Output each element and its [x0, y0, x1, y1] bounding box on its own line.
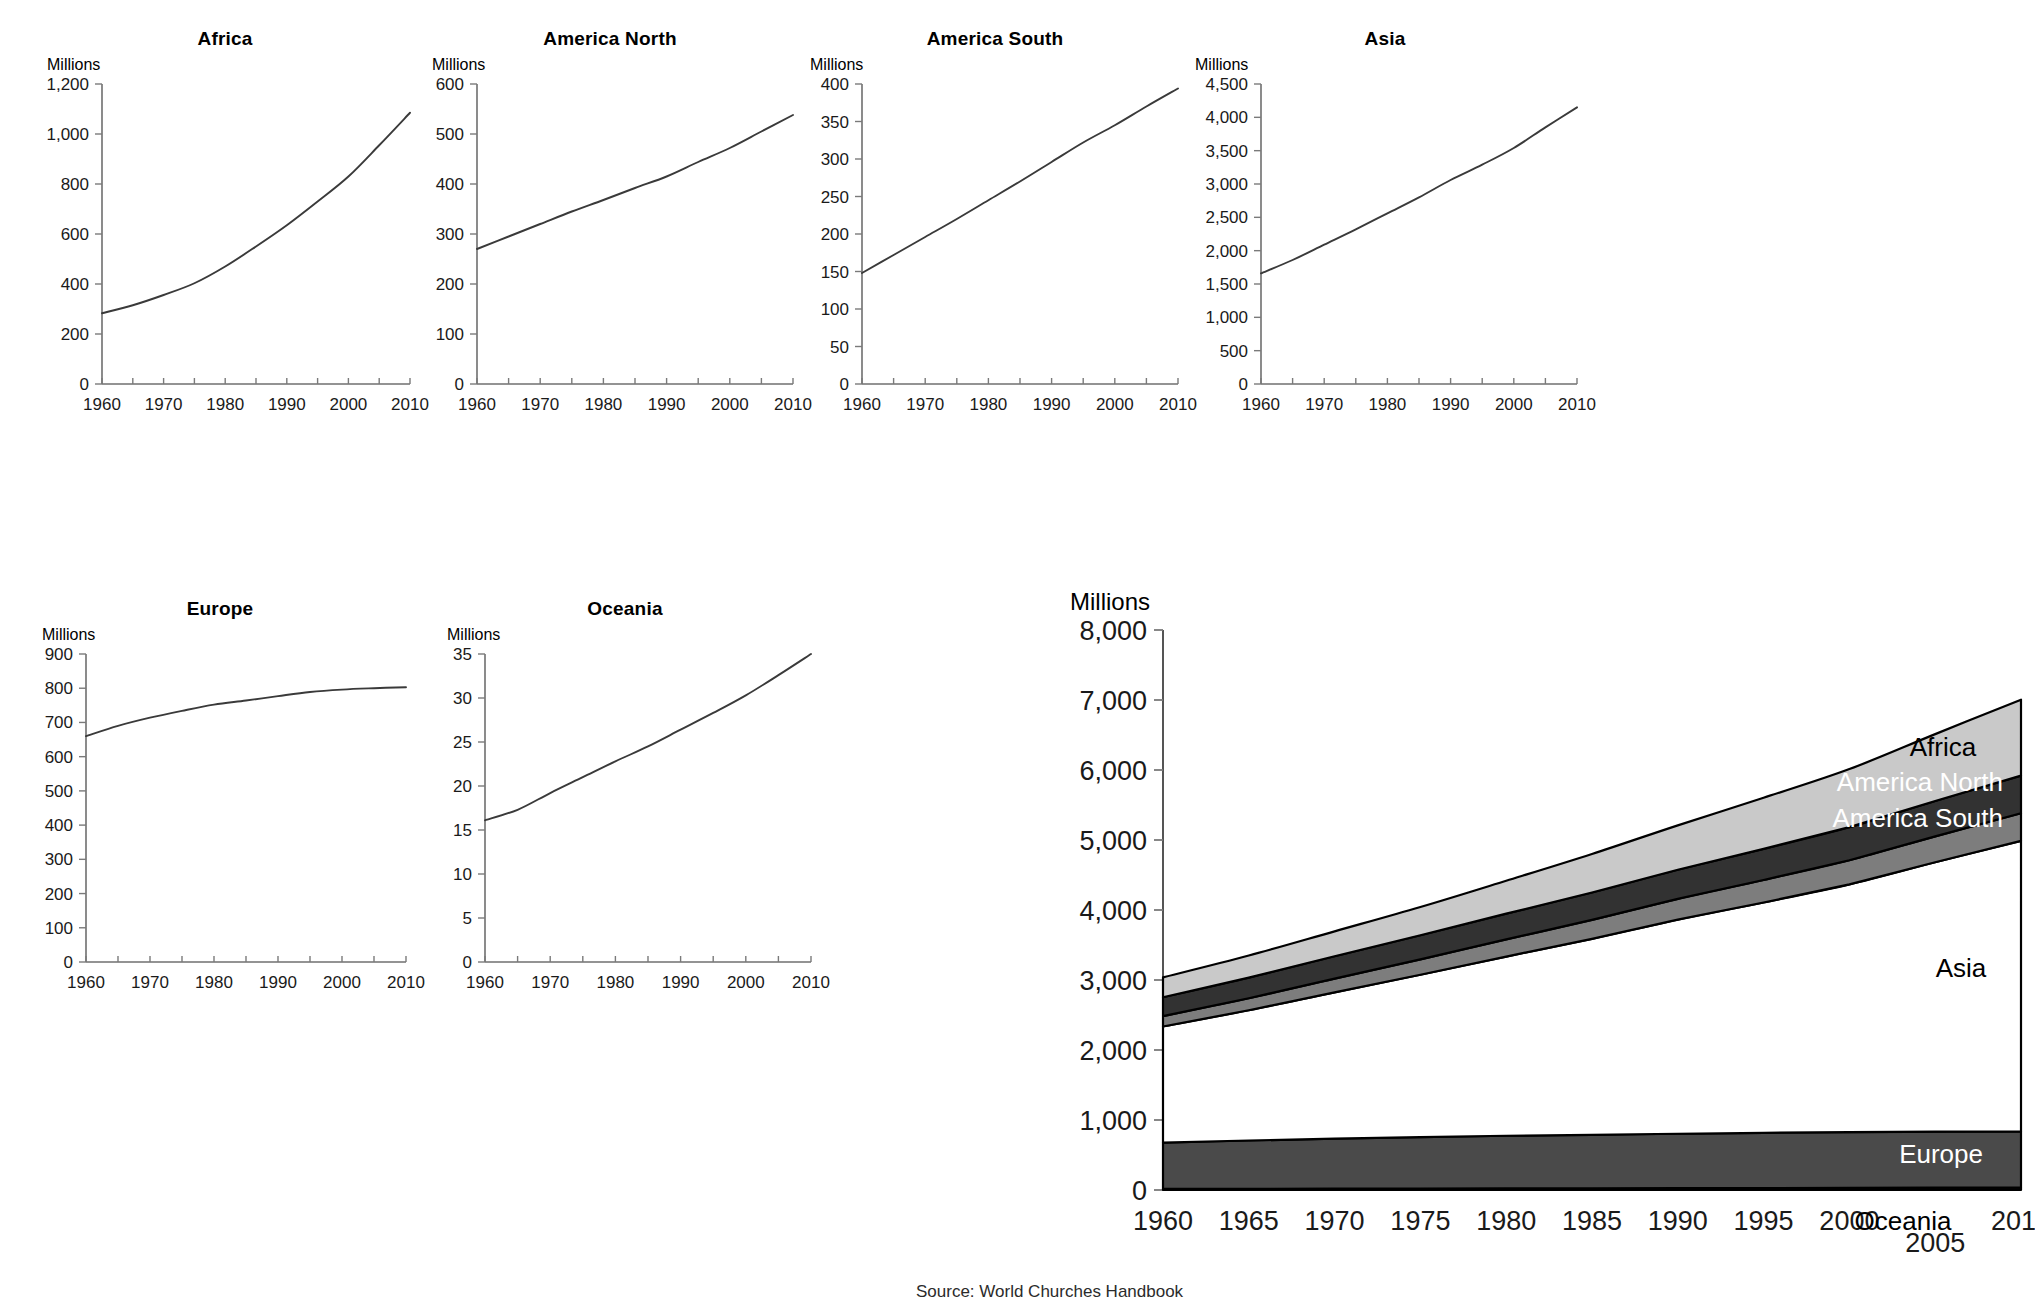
y-tick-label: 2,000: [1205, 242, 1248, 261]
chart-panel-europe: Europe Millions 010020030040050060070080…: [20, 598, 420, 1008]
data-series-line: [485, 654, 811, 820]
stacked-area-chart: 01,0002,0003,0004,0005,0006,0007,0008,00…: [1045, 616, 2035, 1276]
y-tick-label: 200: [61, 325, 89, 344]
x-tick-label: 2010: [792, 973, 830, 992]
y-tick-label: 35: [453, 645, 472, 664]
y-tick-label: 900: [45, 645, 73, 664]
chart-title-america-south: America South: [800, 28, 1190, 50]
y-tick-label: 200: [821, 225, 849, 244]
y-tick-label: 4,500: [1205, 75, 1248, 94]
y-tick-label: 100: [45, 919, 73, 938]
x-tick-label: 2000: [1096, 395, 1134, 414]
y-axis-unit-label-stacked: Millions: [1070, 588, 1150, 616]
chart-title-oceania: Oceania: [425, 598, 825, 620]
x-tick-label: 1980: [596, 973, 634, 992]
x-tick-label: 1960: [843, 395, 881, 414]
chart-panel-america-south: America South Millions 05010015020025030…: [800, 28, 1190, 428]
x-tick-label: 1980: [1476, 1206, 1536, 1236]
stacked-band-label-oceania: Oceania: [1855, 1206, 1952, 1236]
x-tick-label: 1970: [145, 395, 183, 414]
y-tick-label: 8,000: [1079, 616, 1147, 646]
y-tick-label: 1,500: [1205, 275, 1248, 294]
stacked-band-label-europe: Europe: [1899, 1139, 1983, 1169]
y-tick-label: 5,000: [1079, 826, 1147, 856]
y-tick-label: 3,000: [1079, 966, 1147, 996]
x-tick-label: 2000: [1495, 395, 1533, 414]
x-tick-label: 2010: [1558, 395, 1596, 414]
chart-title-asia: Asia: [1185, 28, 1585, 50]
y-tick-label: 0: [1239, 375, 1248, 394]
data-series-line: [1261, 107, 1577, 273]
line-chart-africa: 02004006008001,0001,20019601970198019902…: [30, 70, 420, 430]
y-tick-label: 0: [1132, 1176, 1147, 1206]
y-tick-label: 600: [436, 75, 464, 94]
x-tick-label: 1985: [1562, 1206, 1622, 1236]
y-tick-label: 100: [821, 300, 849, 319]
chart-panel-africa: Africa Millions 02004006008001,0001,2001…: [30, 28, 420, 428]
y-tick-label: 0: [455, 375, 464, 394]
x-tick-label: 1965: [1219, 1206, 1279, 1236]
y-tick-label: 4,000: [1205, 108, 1248, 127]
x-tick-label: 1970: [521, 395, 559, 414]
line-chart-america-south: 0501001502002503003504001960197019801990…: [800, 70, 1190, 430]
x-tick-label: 1990: [1033, 395, 1071, 414]
y-tick-label: 1,000: [1079, 1106, 1147, 1136]
chart-panel-oceania: Oceania Millions 05101520253035196019701…: [425, 598, 825, 1008]
y-tick-label: 0: [64, 953, 73, 972]
y-tick-label: 400: [61, 275, 89, 294]
x-tick-label: 1970: [1305, 1206, 1365, 1236]
x-tick-label: 1990: [268, 395, 306, 414]
x-tick-label: 1990: [648, 395, 686, 414]
y-tick-label: 300: [821, 150, 849, 169]
stacked-band-label-america-south: America South: [1832, 803, 2003, 833]
y-tick-label: 500: [1220, 342, 1248, 361]
y-tick-label: 6,000: [1079, 756, 1147, 786]
x-tick-label: 1990: [1432, 395, 1470, 414]
stacked-band-label-asia: Asia: [1936, 953, 1987, 983]
x-tick-label: 1960: [67, 973, 105, 992]
chart-panel-stacked-total: Millions 01,0002,0003,0004,0005,0006,000…: [1045, 588, 2035, 1268]
line-chart-asia: 05001,0001,5002,0002,5003,0003,5004,0004…: [1185, 70, 1585, 430]
line-chart-america-north: 0100200300400500600196019701980199020002…: [415, 70, 805, 430]
y-tick-label: 10: [453, 865, 472, 884]
y-tick-label: 800: [45, 679, 73, 698]
source-note: Source: World Churches Handbook: [916, 1282, 1183, 1302]
line-chart-europe: 0100200300400500600700800900196019701980…: [20, 640, 420, 1010]
y-tick-label: 2,000: [1079, 1036, 1147, 1066]
y-tick-label: 0: [80, 375, 89, 394]
x-tick-label: 1970: [1305, 395, 1343, 414]
y-tick-label: 1,200: [46, 75, 89, 94]
x-tick-label: 1970: [131, 973, 169, 992]
x-tick-label: 1960: [458, 395, 496, 414]
y-tick-label: 200: [436, 275, 464, 294]
x-tick-label: 2010: [387, 973, 425, 992]
x-tick-label: 1990: [1648, 1206, 1708, 1236]
x-tick-label: 1990: [259, 973, 297, 992]
y-tick-label: 1,000: [1205, 308, 1248, 327]
y-tick-label: 150: [821, 263, 849, 282]
x-tick-label: 1980: [195, 973, 233, 992]
chart-title-africa: Africa: [30, 28, 420, 50]
y-tick-label: 600: [45, 748, 73, 767]
y-tick-label: 300: [436, 225, 464, 244]
x-tick-label: 2000: [329, 395, 367, 414]
x-tick-label: 1980: [1368, 395, 1406, 414]
y-tick-label: 5: [463, 909, 472, 928]
chart-panel-america-north: America North Millions 01002003004005006…: [415, 28, 805, 428]
x-tick-label: 1970: [906, 395, 944, 414]
y-tick-label: 7,000: [1079, 686, 1147, 716]
x-tick-label: 1980: [969, 395, 1007, 414]
x-tick-label: 2000: [711, 395, 749, 414]
data-series-line: [86, 687, 406, 736]
y-tick-label: 3,500: [1205, 142, 1248, 161]
x-tick-label: 1970: [531, 973, 569, 992]
x-tick-label: 2000: [323, 973, 361, 992]
y-tick-label: 250: [821, 188, 849, 207]
x-tick-label: 1960: [1133, 1206, 1193, 1236]
y-tick-label: 300: [45, 850, 73, 869]
y-tick-label: 0: [463, 953, 472, 972]
y-tick-label: 500: [45, 782, 73, 801]
y-tick-label: 400: [821, 75, 849, 94]
y-tick-label: 2,500: [1205, 208, 1248, 227]
y-tick-label: 800: [61, 175, 89, 194]
